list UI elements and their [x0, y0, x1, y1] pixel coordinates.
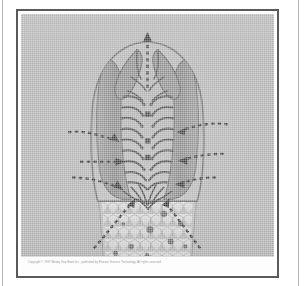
figure-page: Copyright © 1997 Mosby-Year Book Inc., p… [0, 0, 304, 286]
page-gutter-rule-left [2, 0, 3, 286]
page-gutter-rule-right [298, 0, 299, 286]
figure-halftone-plate: Copyright © 1997 Mosby-Year Book Inc., p… [21, 14, 274, 273]
figure-white-mat: Copyright © 1997 Mosby-Year Book Inc., p… [18, 11, 277, 276]
figure-copyright-caption: Copyright © 1997 Mosby-Year Book Inc., p… [28, 261, 162, 265]
figure-frame-border: Copyright © 1997 Mosby-Year Book Inc., p… [16, 9, 279, 278]
apical-arrowhead [143, 32, 152, 42]
specimen-illustration [21, 14, 274, 273]
caption-band: Copyright © 1997 Mosby-Year Book Inc., p… [21, 256, 274, 273]
